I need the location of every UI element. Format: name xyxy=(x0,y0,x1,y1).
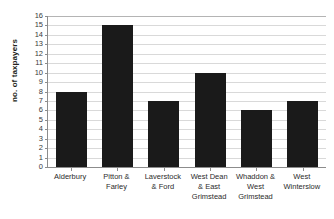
y-axis-tick-label: 15 xyxy=(26,22,43,30)
bar-chart: no. of taxpayers 16151413121110987654321… xyxy=(0,0,334,219)
x-axis-label-line: Farley xyxy=(93,182,139,192)
bar[interactable] xyxy=(148,101,179,167)
x-axis-label-line: Alderbury xyxy=(47,172,93,182)
bar[interactable] xyxy=(56,92,87,168)
y-axis-tick-label: 2 xyxy=(26,144,43,152)
x-axis-label-line: Whaddon & xyxy=(232,172,278,182)
bar-slot xyxy=(233,16,279,167)
y-axis-tick-label: 9 xyxy=(26,78,43,86)
x-axis-category-label: Alderbury xyxy=(47,172,93,182)
plot-area xyxy=(47,16,326,168)
x-axis-label-line: & East xyxy=(186,182,232,192)
x-axis-label-line: Winterslow xyxy=(279,182,325,192)
y-axis-tick-label: 16 xyxy=(26,12,43,20)
x-axis-tickmark xyxy=(303,167,304,171)
y-axis-tick-label: 6 xyxy=(26,107,43,115)
x-axis-category-label: WestWinterslow xyxy=(279,172,325,192)
x-axis-category-labels: AlderburyPitton &FarleyLaverstock& FordW… xyxy=(47,172,325,218)
x-axis-category-label: Pitton &Farley xyxy=(93,172,139,192)
x-axis-label-line: West Dean xyxy=(186,172,232,182)
y-axis-tick-label: 0 xyxy=(26,163,43,171)
bar[interactable] xyxy=(195,73,226,167)
y-axis-tick-label: 12 xyxy=(26,50,43,58)
bar-slot xyxy=(280,16,326,167)
bar[interactable] xyxy=(102,25,133,167)
x-axis-tickmark xyxy=(164,167,165,171)
x-axis-label-line: Laverstock xyxy=(140,172,186,182)
x-axis-category-label: Laverstock& Ford xyxy=(140,172,186,192)
y-axis-tick-label: 7 xyxy=(26,97,43,105)
y-axis-tick-label: 13 xyxy=(26,41,43,49)
y-axis-tickmark xyxy=(45,167,48,168)
x-axis-label-line: & Ford xyxy=(140,182,186,192)
bar-slot xyxy=(48,16,94,167)
x-axis-label-line: Grimstead xyxy=(186,192,232,202)
x-axis-tickmark xyxy=(256,167,257,171)
x-axis-label-line: Pitton & xyxy=(93,172,139,182)
bar-slot xyxy=(94,16,140,167)
bar-slot xyxy=(187,16,233,167)
y-axis-tick-label: 14 xyxy=(26,31,43,39)
x-axis-tickmark xyxy=(210,167,211,171)
x-axis-label-line: Grimstead xyxy=(232,192,278,202)
y-axis-tick-label: 5 xyxy=(26,116,43,124)
x-axis-category-label: West Dean& EastGrimstead xyxy=(186,172,232,202)
y-axis-tick-labels: 161514131211109876543210 xyxy=(26,11,43,168)
bars-layer xyxy=(48,16,326,167)
y-axis-tick-label: 11 xyxy=(26,59,43,67)
x-axis-category-label: Whaddon &WestGrimstead xyxy=(232,172,278,202)
y-axis-tick-label: 4 xyxy=(26,126,43,134)
x-axis-tickmark xyxy=(71,167,72,171)
x-axis-label-line: West xyxy=(232,182,278,192)
y-axis-tick-label: 10 xyxy=(26,69,43,77)
bar[interactable] xyxy=(241,110,272,167)
bar-slot xyxy=(141,16,187,167)
x-axis-tickmark xyxy=(117,167,118,171)
x-axis-label-line: West xyxy=(279,172,325,182)
y-axis-title: no. of taxpayers xyxy=(10,11,19,131)
y-axis-tick-label: 3 xyxy=(26,135,43,143)
y-axis-tick-label: 1 xyxy=(26,154,43,162)
y-axis-tick-label: 8 xyxy=(26,88,43,96)
bar[interactable] xyxy=(287,101,318,167)
